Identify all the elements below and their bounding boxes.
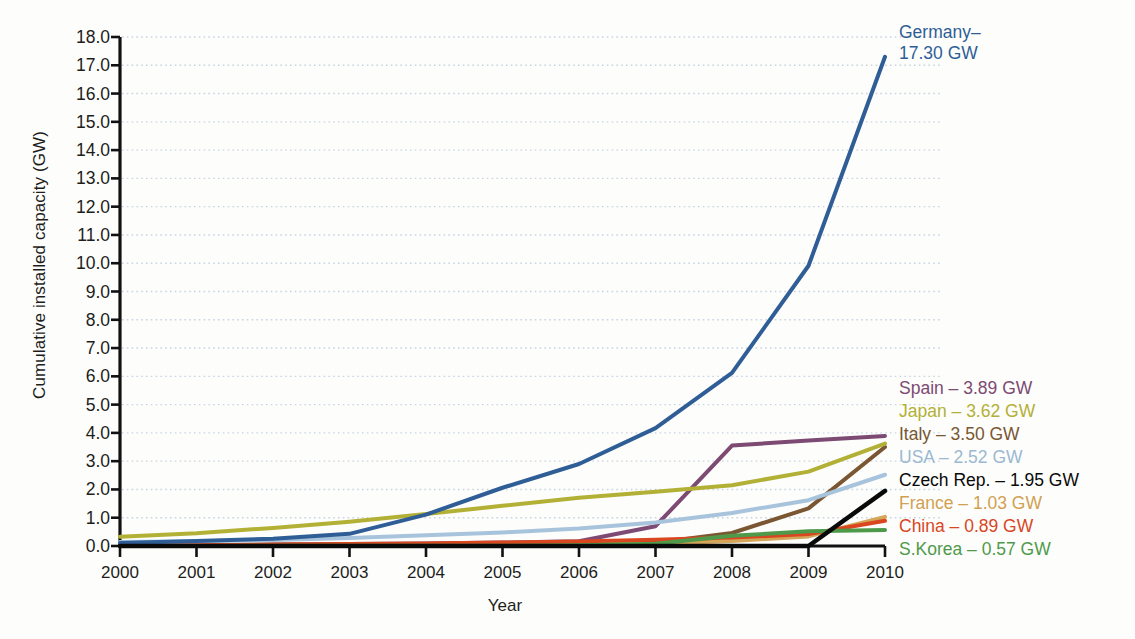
series-label-france: France – 1.03 GW	[899, 493, 1042, 514]
series-label-usa: USA – 2.52 GW	[899, 447, 1023, 468]
series-label-line1: Germany–	[899, 22, 981, 43]
series-label-s-korea: S.Korea – 0.57 GW	[899, 539, 1051, 560]
series-label-italy: Italy – 3.50 GW	[899, 424, 1020, 445]
series-label-china: China – 0.89 GW	[899, 516, 1033, 537]
series-line-germany	[120, 57, 885, 543]
series-label-japan: Japan – 3.62 GW	[899, 401, 1035, 422]
series-label-czech-rep: Czech Rep. – 1.95 GW	[899, 470, 1079, 491]
series-label-germany: Germany–17.30 GW	[899, 22, 981, 64]
chart-figure: Cumulative installed capacity (GW) Year …	[0, 0, 1135, 639]
series-label-line2: 17.30 GW	[899, 43, 981, 64]
series-label-spain: Spain – 3.89 GW	[899, 378, 1032, 399]
